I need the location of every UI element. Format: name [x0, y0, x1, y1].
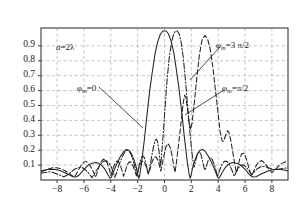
annotation-value: =3 π/2: [226, 40, 249, 50]
y-tick-label: 0.7: [9, 69, 35, 79]
annotation-phi-pi-2: φm=π/2: [222, 83, 248, 94]
x-tick-label: −8: [46, 184, 68, 194]
x-tick-label: 0: [154, 184, 176, 194]
y-tick-label: 0.1: [9, 159, 35, 169]
x-tick-label: 8: [261, 184, 283, 194]
annotation-phi-3pi-2: φm=3 π/2: [216, 40, 249, 51]
y-tick-label: 0.9: [9, 39, 35, 49]
annotation-value: =0: [87, 83, 97, 93]
x-tick-label: −2: [127, 184, 149, 194]
y-tick-label: 0.3: [9, 129, 35, 139]
x-tick-label: 4: [207, 184, 229, 194]
y-tick-label: 0.2: [9, 144, 35, 154]
plot-area: [0, 0, 299, 213]
y-tick-label: 0.4: [9, 114, 35, 124]
annotation-value: =2λ: [61, 42, 75, 52]
annotation-aperture: a=2λ: [56, 42, 74, 52]
y-tick-label: 0.8: [9, 54, 35, 64]
mask-top: [0, 0, 299, 28]
x-tick-label: −6: [73, 184, 95, 194]
annotation-phi-0: φm=0: [77, 83, 96, 94]
x-tick-label: 2: [180, 184, 202, 194]
x-tick-label: 6: [234, 184, 256, 194]
annotation-value: =π/2: [232, 83, 249, 93]
y-tick-label: 0.6: [9, 84, 35, 94]
y-tick-label: 0.5: [9, 99, 35, 109]
chart-figure: FN(θ) θ/° 0.10.20.30.40.50.60.70.80.9 −8…: [0, 0, 299, 213]
x-tick-label: −4: [100, 184, 122, 194]
mask-right: [289, 0, 299, 213]
